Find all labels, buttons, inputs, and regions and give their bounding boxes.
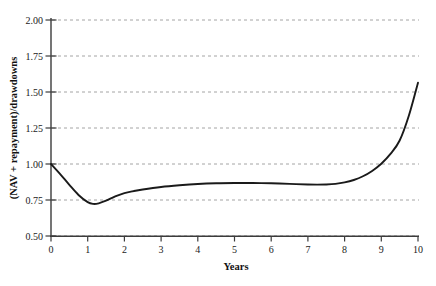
x-tick-label: 3 xyxy=(159,244,164,255)
y-tick-label: 0.75 xyxy=(26,195,44,206)
x-tick-label: 7 xyxy=(305,244,310,255)
x-tick-label: 0 xyxy=(49,244,54,255)
x-tick-label: 8 xyxy=(342,244,347,255)
y-tick-label: 1.50 xyxy=(26,87,44,98)
y-tick-label: 1.75 xyxy=(26,51,44,62)
y-tick-label: 1.00 xyxy=(26,159,44,170)
x-axis-title: Years xyxy=(223,261,248,272)
x-tick-label: 2 xyxy=(122,244,127,255)
x-tick-label: 5 xyxy=(232,244,237,255)
chart-background xyxy=(0,0,436,286)
chart-canvas: 0.500.751.001.251.501.752.00 01234567891… xyxy=(0,0,436,286)
chart-figure: 0.500.751.001.251.501.752.00 01234567891… xyxy=(0,0,436,286)
y-tick-label: 2.00 xyxy=(26,15,44,26)
x-tick-label: 4 xyxy=(195,244,200,255)
y-tick-label: 1.25 xyxy=(26,123,44,134)
y-tick-label: 0.50 xyxy=(26,231,44,242)
x-tick-label: 1 xyxy=(85,244,90,255)
x-tick-label: 6 xyxy=(269,244,274,255)
x-tick-label: 9 xyxy=(379,244,384,255)
y-axis-title: (NAV + repayment)/drawdowns xyxy=(8,57,20,200)
x-tick-label: 10 xyxy=(413,244,423,255)
